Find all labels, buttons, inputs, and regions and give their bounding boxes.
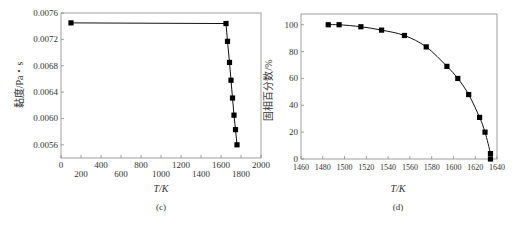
y-tick-label: 60 xyxy=(289,73,299,83)
x-tick-label: 600 xyxy=(114,169,128,179)
figure: 0.00560.00600.00640.00680.00720.0076 020… xyxy=(0,0,512,225)
caption-c: (c) xyxy=(156,202,166,212)
data-point-marker xyxy=(466,92,471,97)
data-point-marker xyxy=(337,22,342,27)
y-tick-label: 0.0072 xyxy=(33,34,58,44)
data-point-marker xyxy=(379,28,384,33)
x-tick-label: 0 xyxy=(59,160,64,170)
y-tick-label: 80 xyxy=(289,47,299,57)
data-point-marker xyxy=(225,39,230,44)
x-tick-label: 1000 xyxy=(152,169,171,179)
y-axis-ticks-c: 0.00560.00600.00640.00680.00720.0076 xyxy=(33,8,64,150)
series-line xyxy=(328,25,491,159)
x-tick-label: 1800 xyxy=(232,169,251,179)
caption-d: (d) xyxy=(393,202,404,212)
data-point-marker xyxy=(477,115,482,120)
x-axis-ticks-d: 1460148015001520154015601580160016201640 xyxy=(293,156,505,172)
series-c xyxy=(68,20,239,147)
y-axis-label-c: 黏度/Pa・s xyxy=(13,62,25,109)
y-tick-label: 0.0076 xyxy=(33,8,58,18)
data-point-marker xyxy=(234,142,239,147)
x-tick-label: 1540 xyxy=(380,163,396,172)
series-d xyxy=(326,22,493,161)
data-point-marker xyxy=(358,24,363,29)
y-tick-label: 20 xyxy=(289,127,299,137)
data-point-marker xyxy=(402,33,407,38)
x-tick-label: 1640 xyxy=(489,163,505,172)
y-tick-label: 0.0056 xyxy=(33,140,58,150)
data-point-marker xyxy=(228,78,233,83)
panel-c-viscosity-chart: 0.00560.00600.00640.00680.00720.0076 020… xyxy=(13,8,271,212)
data-point-marker xyxy=(231,113,236,118)
data-point-marker xyxy=(482,130,487,135)
x-tick-label: 800 xyxy=(134,160,148,170)
x-tick-label: 1620 xyxy=(467,163,483,172)
x-tick-label: 2000 xyxy=(252,160,271,170)
x-tick-label: 1580 xyxy=(424,163,440,172)
x-tick-label: 1560 xyxy=(402,163,418,172)
x-tick-label: 200 xyxy=(74,169,88,179)
x-tick-label: 1520 xyxy=(358,163,374,172)
x-tick-label: 1460 xyxy=(293,163,309,172)
data-point-marker xyxy=(444,64,449,69)
data-point-marker xyxy=(424,44,429,49)
data-point-marker xyxy=(488,156,493,161)
y-tick-label: 0.0060 xyxy=(33,113,58,123)
y-tick-label: 40 xyxy=(289,100,299,110)
data-point-marker xyxy=(326,22,331,27)
data-point-marker xyxy=(68,20,73,25)
y-axis-label-d: 固相百分数/% xyxy=(262,59,274,120)
x-tick-label: 1600 xyxy=(445,163,461,172)
data-point-marker xyxy=(233,127,238,132)
x-tick-label: 400 xyxy=(94,160,108,170)
x-axis-label-d: T/K xyxy=(390,183,406,194)
data-point-marker xyxy=(488,151,493,156)
x-axis-ticks-c: 0200400600800100012001400160018002000 xyxy=(59,155,271,179)
y-tick-label: 0.0064 xyxy=(33,87,58,97)
data-point-marker xyxy=(227,60,232,65)
x-tick-label: 1480 xyxy=(315,163,331,172)
x-tick-label: 1200 xyxy=(172,160,191,170)
x-tick-label: 1500 xyxy=(337,163,353,172)
y-tick-label: 0.0068 xyxy=(33,61,58,71)
panel-d-solid-fraction-chart: 020406080100 146014801500152015401560158… xyxy=(262,14,505,212)
x-tick-label: 1400 xyxy=(192,169,211,179)
x-axis-label-c: T/K xyxy=(153,183,169,194)
plot-frame-d xyxy=(301,14,497,159)
data-point-marker xyxy=(223,21,228,26)
data-point-marker xyxy=(230,95,235,100)
series-line xyxy=(71,23,237,145)
x-tick-label: 1600 xyxy=(212,160,231,170)
y-tick-label: 100 xyxy=(285,20,299,30)
data-point-marker xyxy=(455,76,460,81)
